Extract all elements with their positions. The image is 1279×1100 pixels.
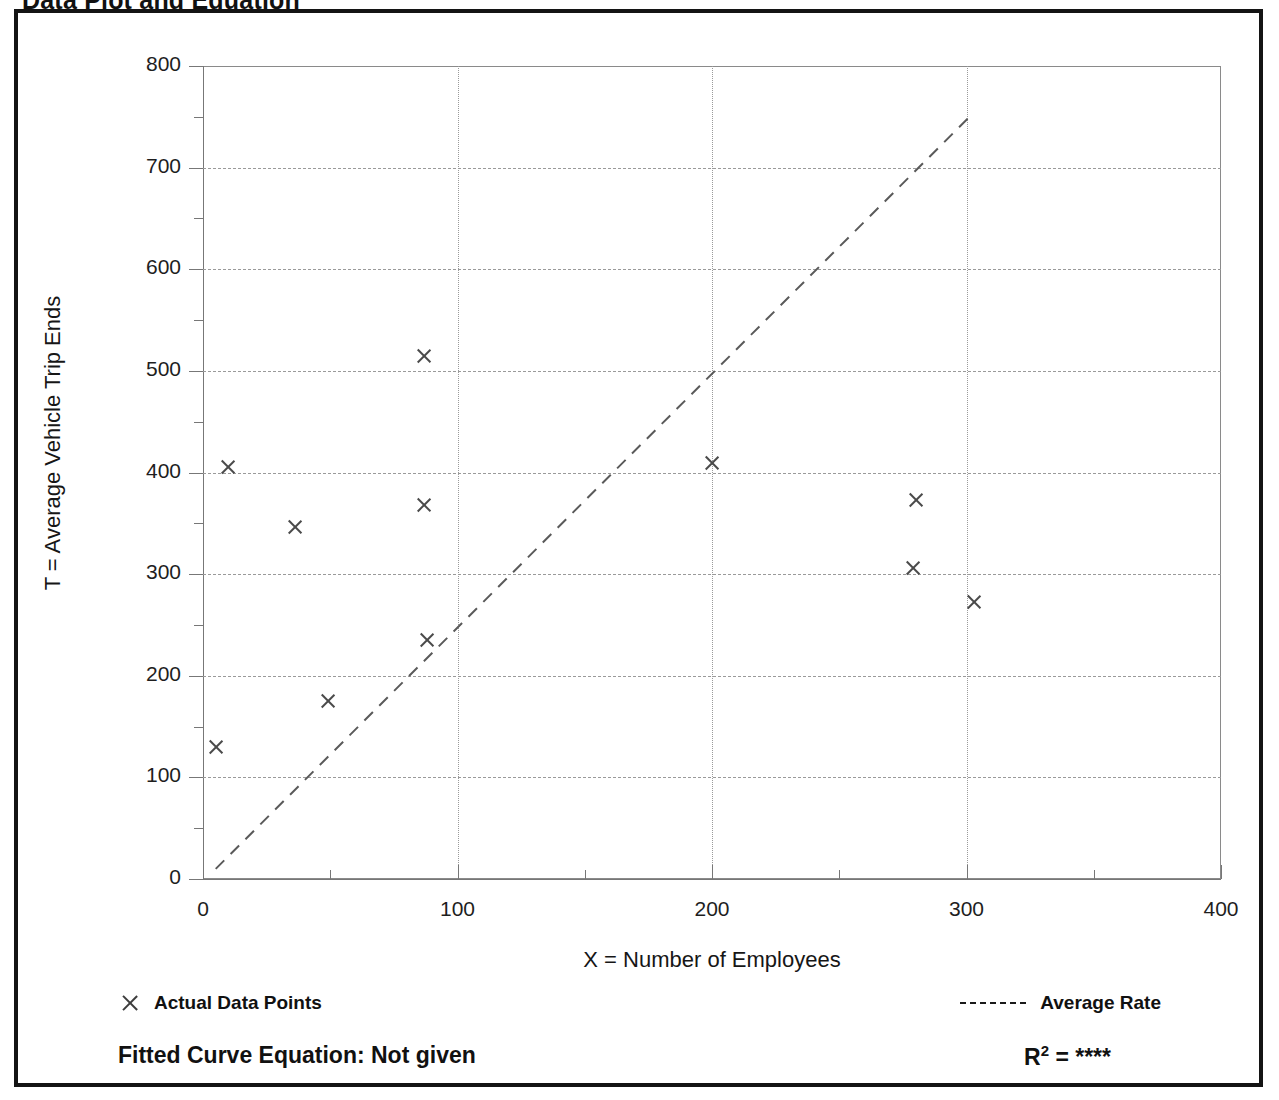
x-tick-label: 100 xyxy=(418,897,498,921)
x-tick-label: 300 xyxy=(927,897,1007,921)
data-point-marker xyxy=(286,518,304,536)
gridline-vertical xyxy=(967,66,968,879)
x-tick-minor xyxy=(839,870,840,879)
x-tick-major xyxy=(458,865,459,879)
x-tick-label: 0 xyxy=(163,897,243,921)
y-tick-label: 700 xyxy=(111,154,181,178)
dashed-line-icon xyxy=(960,1002,1026,1004)
x-axis-title: X = Number of Employees xyxy=(203,947,1221,973)
y-tick-minor xyxy=(194,320,203,321)
y-tick-major xyxy=(189,777,203,778)
y-tick-label: 600 xyxy=(111,255,181,279)
r-squared-number: = **** xyxy=(1055,1044,1111,1070)
x-tick-major xyxy=(203,865,204,879)
y-tick-minor xyxy=(194,523,203,524)
legend-label-average-rate: Average Rate xyxy=(1040,992,1161,1014)
data-point-marker xyxy=(415,496,433,514)
x-tick-label: 200 xyxy=(672,897,752,921)
y-tick-major xyxy=(189,473,203,474)
legend: Actual Data Points Average Rate xyxy=(0,992,1279,1028)
y-tick-minor xyxy=(194,117,203,118)
x-tick-minor xyxy=(330,870,331,879)
y-tick-major xyxy=(189,879,203,880)
x-axis-line xyxy=(203,879,1221,880)
data-point-marker xyxy=(965,593,983,611)
plot-figure: 0100200300400500600700800 0100200300400 … xyxy=(0,0,1279,1100)
x-tick-minor xyxy=(1094,870,1095,879)
gridline-vertical xyxy=(712,66,713,879)
data-point-marker xyxy=(904,559,922,577)
legend-item-average-rate: Average Rate xyxy=(960,992,1161,1014)
y-tick-major xyxy=(189,66,203,67)
y-tick-label: 300 xyxy=(111,560,181,584)
fitted-curve-equation: Fitted Curve Equation: Not given xyxy=(118,1042,476,1069)
legend-item-actual-data-points: Actual Data Points xyxy=(120,992,322,1014)
data-point-marker xyxy=(219,458,237,476)
x-tick-major xyxy=(967,865,968,879)
y-tick-minor xyxy=(194,422,203,423)
x-tick-major xyxy=(1221,865,1222,879)
r-squared-value: R2 = **** xyxy=(1024,1042,1111,1071)
data-point-marker xyxy=(907,491,925,509)
x-tick-label: 400 xyxy=(1181,897,1261,921)
x-marker-icon xyxy=(120,993,140,1013)
y-tick-major xyxy=(189,269,203,270)
data-point-marker xyxy=(703,454,721,472)
y-tick-major xyxy=(189,168,203,169)
r-squared-prefix: R xyxy=(1024,1044,1041,1070)
data-point-marker xyxy=(207,738,225,756)
legend-label-actual-data-points: Actual Data Points xyxy=(154,992,322,1014)
y-tick-major xyxy=(189,676,203,677)
data-point-marker xyxy=(415,347,433,365)
y-tick-minor xyxy=(194,828,203,829)
y-tick-major xyxy=(189,371,203,372)
data-point-marker xyxy=(319,692,337,710)
y-tick-label: 200 xyxy=(111,662,181,686)
y-tick-label: 100 xyxy=(111,763,181,787)
chart-page: Data Plot and Equation 01002003004005006… xyxy=(0,0,1279,1100)
x-tick-major xyxy=(712,865,713,879)
y-tick-major xyxy=(189,574,203,575)
gridline-vertical xyxy=(458,66,459,879)
y-tick-label: 800 xyxy=(111,52,181,76)
y-tick-minor xyxy=(194,727,203,728)
y-tick-label: 500 xyxy=(111,357,181,381)
x-tick-minor xyxy=(585,870,586,879)
y-tick-label: 400 xyxy=(111,459,181,483)
y-axis-title: T = Average Vehicle Trip Ends xyxy=(40,278,66,608)
data-point-marker xyxy=(418,631,436,649)
y-tick-minor xyxy=(194,218,203,219)
y-tick-minor xyxy=(194,625,203,626)
footer: Fitted Curve Equation: Not given R2 = **… xyxy=(0,1042,1279,1082)
r-squared-exponent: 2 xyxy=(1041,1042,1049,1059)
y-tick-label: 0 xyxy=(111,865,181,889)
